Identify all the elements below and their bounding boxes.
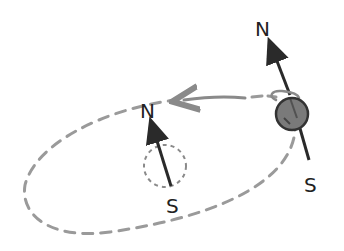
center-north-label: N [140, 99, 155, 123]
orbit-diagram: N S N S [0, 0, 344, 251]
planet-north-label: N [255, 17, 270, 41]
planet-south-label: S [304, 173, 317, 197]
center-axis-arrow [153, 128, 171, 186]
orbit-direction-arrow [184, 97, 245, 100]
center-south-label: S [166, 194, 179, 218]
planet-axis-north-arrow [272, 48, 290, 95]
orbit-path [24, 100, 295, 234]
